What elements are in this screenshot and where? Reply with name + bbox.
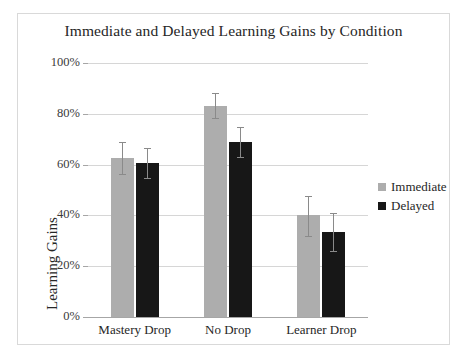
error-bar-stem [240, 127, 241, 159]
y-axis-tick-label: 40% [40, 207, 80, 222]
error-bar-cap-top [330, 213, 337, 214]
error-bar-cap-top [212, 93, 219, 94]
error-bar-delayed-learner-drop [330, 213, 337, 252]
error-bar-cap-bottom [330, 251, 337, 252]
y-axis-tick-label: 60% [40, 157, 80, 172]
error-bar-cap-bottom [305, 236, 312, 237]
bar-immediate-mastery-drop [111, 158, 134, 317]
error-bar-stem [308, 196, 309, 237]
plot-area [88, 63, 368, 317]
legend-item-immediate[interactable]: Immediate [378, 177, 450, 196]
error-bar-stem [215, 93, 216, 118]
bar-delayed-no-drop [229, 142, 252, 317]
figure: Immediate and Delayed Learning Gains by … [0, 0, 464, 363]
legend-item-delayed[interactable]: Delayed [378, 196, 450, 215]
bar-immediate-no-drop [204, 106, 227, 317]
error-bar-delayed-no-drop [237, 127, 244, 159]
error-bar-cap-top [144, 148, 151, 149]
error-bar-cap-bottom [212, 118, 219, 119]
y-axis-title: Learning Gains [34, 60, 54, 320]
error-bar-cap-bottom [119, 174, 126, 175]
legend-swatch-immediate-icon [378, 183, 386, 191]
legend-swatch-delayed-icon [378, 202, 386, 210]
legend-label: Immediate [391, 179, 447, 195]
x-axis-tick-label-learner-drop: Learner Drop [261, 322, 381, 338]
error-bar-cap-bottom [144, 178, 151, 179]
error-bar-delayed-mastery-drop [144, 148, 151, 178]
error-bar-stem [147, 148, 148, 178]
error-bar-stem [122, 142, 123, 175]
chart-legend: ImmediateDelayed [378, 177, 450, 215]
error-bar-cap-bottom [237, 157, 244, 158]
error-bar-cap-top [119, 142, 126, 143]
y-axis-tick-label: 20% [40, 258, 80, 273]
gridline [88, 114, 368, 115]
y-axis-tick-label: 100% [40, 55, 80, 70]
error-bar-stem [333, 213, 334, 252]
chart-title: Immediate and Delayed Learning Gains by … [17, 22, 450, 40]
y-axis-tick-label: 80% [40, 106, 80, 121]
x-axis-line [88, 317, 368, 318]
error-bar-immediate-mastery-drop [119, 142, 126, 175]
error-bar-cap-top [305, 196, 312, 197]
error-bar-cap-top [237, 127, 244, 128]
bar-delayed-mastery-drop [136, 163, 159, 317]
gridline [88, 63, 368, 64]
error-bar-immediate-learner-drop [305, 196, 312, 237]
error-bar-immediate-no-drop [212, 93, 219, 118]
legend-label: Delayed [391, 198, 434, 214]
